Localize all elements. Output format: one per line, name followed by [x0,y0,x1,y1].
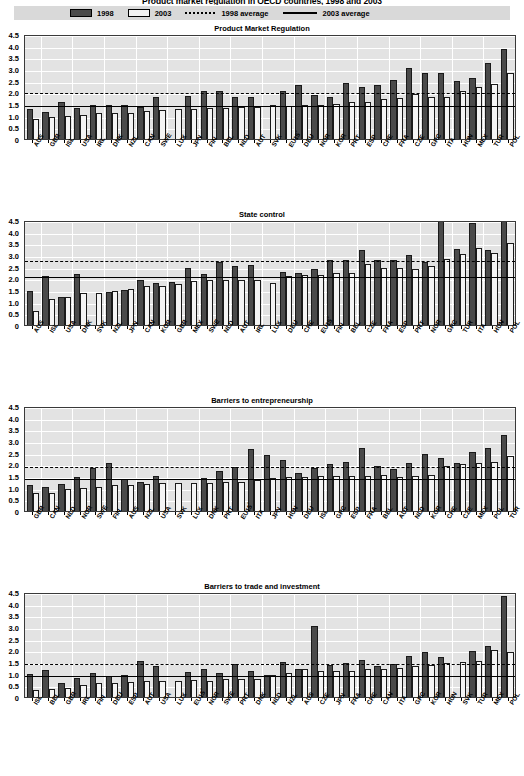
y-tick-label: 0.5 [9,124,19,133]
x-label-cell: CAN [135,329,151,359]
bar-group [152,408,168,511]
bar-group [452,222,468,325]
bar-group [436,222,452,325]
bar-group [120,222,136,325]
x-label-cell: CHE [294,329,310,359]
x-label-cell: NOR [310,143,326,173]
x-label-cell: ISL [310,515,326,545]
bar-group [183,594,199,697]
bar-group [25,222,41,325]
bar-group [72,408,88,511]
panel-title-2: Barriers to entrepreneurship [0,396,524,406]
bar-group [357,408,373,511]
bar-group [199,36,215,139]
x-label-cell: SWE [215,701,231,731]
x-label-cell: ISL [56,143,72,173]
plot-box-1 [24,221,516,326]
bar-group [183,36,199,139]
bar-group [120,36,136,139]
bar-2003 [397,98,403,139]
bar-group [136,222,152,325]
bar-group [452,36,468,139]
x-label-cell: KOR [421,515,437,545]
bar-2003 [286,276,292,325]
bar-group [468,594,484,697]
x-label-cell: USA [56,329,72,359]
x-label-cell: USA [72,143,88,173]
x-label-cell: USA [151,515,167,545]
bar-2003 [491,462,497,511]
plot-box-0 [24,35,516,140]
x-label-cell: PRT [342,143,358,173]
bar-group [215,222,231,325]
plot-box-2 [24,407,516,512]
x-axis-labels-1: AUSISLUSADNKSVKNZLJPNCANKORGBRMEXSWENLDA… [24,329,516,359]
bar-group [57,222,73,325]
legend-item-bar-1998: 1998 [70,9,114,18]
x-label-cell: PRT [215,515,231,545]
x-label-cell: TUR [500,515,516,545]
bar-group [231,36,247,139]
bar-group [104,408,120,511]
bar-group [199,408,215,511]
bar-2003 [318,275,324,325]
y-tick-label: 0 [15,322,19,331]
bar-group [88,408,104,511]
bar-group [231,408,247,511]
bar-group [294,222,310,325]
x-label-cell: DEU [103,701,119,731]
avg-1998-line [25,261,515,262]
x-label-cell: GBR [40,143,56,173]
bar-group [278,222,294,325]
x-label-cell: SVK [167,515,183,545]
plot-area-2: 4.54.03.53.02.52.01.51.00.50GBRCANNLDNOR… [24,407,516,525]
bar-group [452,594,468,697]
avg-2003-line [25,479,515,480]
x-label-cell: SVK [88,329,104,359]
bar-group [499,222,515,325]
bar-group [341,222,357,325]
y-tick-label: 4.5 [9,31,19,40]
bar-group [104,594,120,697]
x-label-cell: GBR [167,329,183,359]
x-label-cell: KOR [151,329,167,359]
x-label-cell: NOR [421,329,437,359]
bar-2003 [491,253,497,325]
bar-group [104,222,120,325]
x-label-cell: AUT [389,515,405,545]
bar-container-1 [25,222,515,325]
bar-group [41,594,57,697]
x-label-cell: FRA [373,329,389,359]
y-tick-label: 3.5 [9,240,19,249]
x-label-cell: CZE [453,515,469,545]
bar-group [499,36,515,139]
legend-swatch-bar-1998 [70,9,92,17]
bar-group [262,222,278,325]
bar-group [373,36,389,139]
bar-group [389,594,405,697]
y-tick-label: 4.5 [9,589,19,598]
bar-group [468,222,484,325]
x-label-cell: NLD [215,329,231,359]
bar-group [341,408,357,511]
bar-group [357,222,373,325]
x-label-cell: NZL [119,143,135,173]
x-label-cell: FIN [326,329,342,359]
x-label-cell: LUX [167,701,183,731]
bar-group [25,36,41,139]
bar-group [72,594,88,697]
bar-2003 [302,275,308,325]
bar-2003 [428,97,434,139]
bar-group [405,36,421,139]
bar-group [25,408,41,511]
bar-2003 [333,104,339,139]
bar-2003 [460,464,466,511]
legend-label-avg-1998: 1998 average [221,9,268,18]
x-label-cell: NZL [103,329,119,359]
x-label-cell: DNK [72,329,88,359]
x-label-cell: SWE [151,143,167,173]
x-label-cell: AUT [246,143,262,173]
y-tick-label: 0 [15,508,19,517]
bar-group [468,408,484,511]
legend-item-avg-1998: 1998 average [185,9,268,18]
